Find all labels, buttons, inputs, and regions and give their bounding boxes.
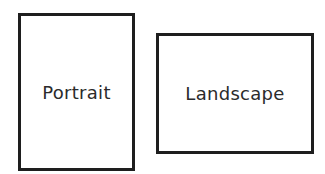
landscape-label: Landscape [185,83,284,104]
portrait-orientation-box: Portrait [18,13,135,171]
landscape-orientation-box: Landscape [156,33,314,154]
portrait-label: Portrait [42,82,111,103]
